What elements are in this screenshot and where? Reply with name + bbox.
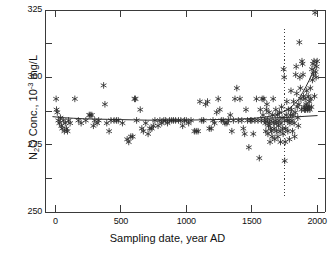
data-point-marker	[315, 58, 320, 64]
data-point-marker	[138, 107, 143, 113]
data-point-marker	[228, 112, 233, 118]
data-point-marker	[232, 96, 237, 102]
data-point-marker	[282, 74, 287, 80]
scatter-points	[54, 10, 320, 164]
data-point-marker	[297, 39, 302, 45]
y-axis-title-subscript: 2	[32, 148, 41, 152]
axis-frame	[45, 10, 325, 212]
x-tick-label: 2000	[297, 216, 335, 226]
data-point-marker	[294, 91, 299, 97]
data-point-marker	[216, 96, 221, 102]
data-point-marker	[259, 118, 264, 124]
data-point-marker	[242, 131, 247, 137]
y-axis-title-superscript: -3	[26, 83, 35, 90]
data-point-marker	[236, 118, 241, 124]
data-point-marker	[268, 139, 273, 145]
data-point-marker	[120, 120, 125, 126]
data-point-marker	[278, 139, 283, 145]
data-point-marker	[243, 107, 248, 113]
data-point-marker	[295, 115, 300, 121]
data-point-marker	[287, 136, 292, 142]
data-point-marker	[231, 118, 236, 124]
data-point-marker	[72, 96, 77, 102]
data-point-marker	[241, 126, 246, 132]
data-point-marker	[254, 96, 259, 102]
data-point-marker	[293, 72, 298, 78]
y-axis-title-tail: mg/L	[27, 55, 39, 83]
data-point-marker	[292, 134, 297, 140]
data-point-marker	[288, 88, 293, 94]
data-point-marker	[102, 101, 107, 107]
data-point-marker	[197, 99, 202, 105]
y-axis-title-mid: O Conc., 10	[27, 89, 39, 148]
data-point-marker	[271, 96, 276, 102]
data-point-marker	[180, 123, 185, 129]
data-point-marker	[298, 85, 303, 91]
data-point-marker	[101, 83, 106, 89]
data-point-marker	[229, 128, 234, 134]
data-point-marker	[279, 104, 284, 110]
data-point-marker	[258, 107, 263, 113]
data-point-marker	[282, 158, 287, 164]
data-point-marker	[251, 131, 256, 137]
data-point-marker	[294, 64, 299, 70]
x-axis-title: Sampling date, year AD	[0, 232, 335, 244]
data-point-marker	[264, 101, 269, 107]
data-point-marker	[281, 66, 286, 72]
data-point-marker	[54, 96, 59, 102]
data-point-marker	[146, 131, 151, 137]
data-point-marker	[143, 120, 148, 126]
data-point-marker	[104, 120, 109, 126]
data-point-marker	[234, 85, 239, 91]
data-point-marker	[284, 99, 289, 105]
data-point-marker	[296, 123, 301, 129]
y-tick-label: 250	[18, 206, 42, 216]
x-tick-label: 1500	[232, 216, 272, 226]
data-point-marker	[290, 128, 295, 134]
data-point-marker	[257, 155, 262, 161]
data-point-marker	[283, 139, 288, 145]
y-axis-title: N2O Conc., 10-3 mg/L	[26, 13, 41, 203]
x-tick-label: 500	[101, 216, 141, 226]
data-point-marker	[237, 96, 242, 102]
data-point-marker	[107, 128, 112, 134]
data-point-marker	[108, 118, 113, 124]
y-axis-title-lead: N	[27, 152, 39, 160]
n2o-concentration-figure: 2502753003250500100015002000 Sampling da…	[0, 0, 335, 262]
x-tick-label: 1000	[166, 216, 206, 226]
x-tick-label: 0	[35, 216, 75, 226]
tick-marks	[45, 10, 325, 212]
data-point-marker	[246, 144, 251, 150]
